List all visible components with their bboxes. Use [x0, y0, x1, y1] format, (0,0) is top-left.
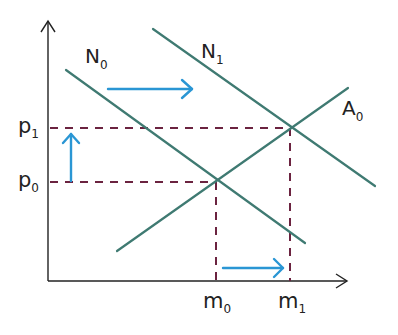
label-n0: N0 [85, 44, 108, 72]
label-p1: p1 [18, 114, 39, 141]
curve-a0 [117, 88, 348, 251]
price-rise-arrow-icon [63, 134, 79, 181]
label-m0: m0 [203, 289, 231, 316]
shift-arrows [63, 80, 283, 277]
label-m1: m1 [278, 289, 306, 316]
supply-demand-diagram: N0 N1 A0 p1 p0 m0 m1 [0, 0, 398, 335]
quantity-rise-arrow-icon [223, 259, 283, 277]
guide-lines [50, 128, 290, 281]
demand-shift-arrow-icon [108, 80, 192, 98]
label-a0: A0 [342, 96, 363, 124]
label-n1: N1 [201, 39, 224, 67]
label-p0: p0 [18, 168, 39, 195]
